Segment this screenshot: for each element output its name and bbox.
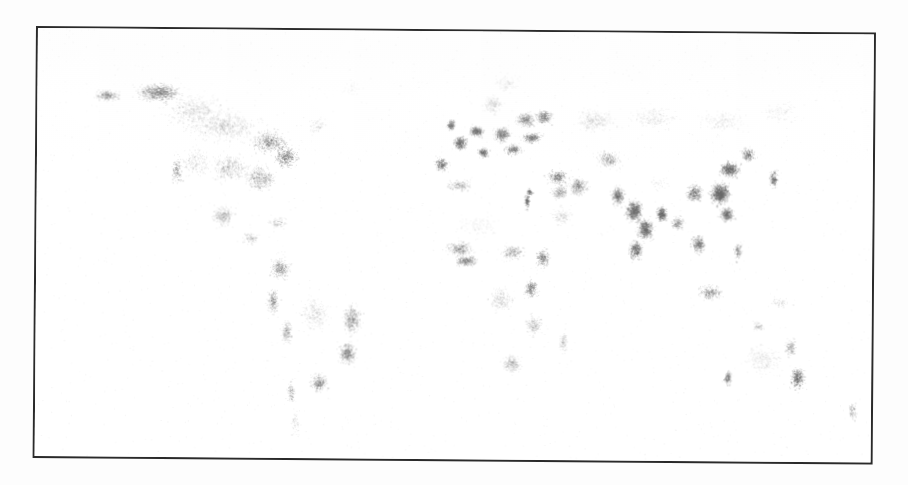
map-plate-frame: [33, 26, 876, 465]
figure-page: A faded, photocopied world map rendered …: [0, 0, 908, 485]
map-canvas-wrapper: [35, 28, 874, 463]
world-dot-density-map: [35, 28, 874, 463]
